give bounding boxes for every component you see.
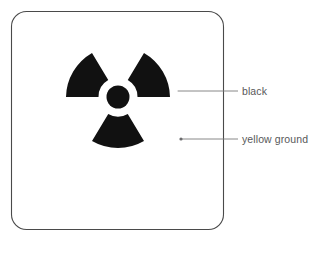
radiation-sign-diagram (0, 0, 318, 253)
callout-black-marker-dot (174, 89, 178, 93)
trefoil-center-disc (107, 86, 130, 109)
diagram-canvas: black yellow ground (0, 0, 318, 253)
callout-yellow-ground-marker-dot (179, 137, 182, 140)
callout-label-yellow-ground: yellow ground (242, 134, 308, 145)
callout-label-black: black (242, 86, 267, 97)
